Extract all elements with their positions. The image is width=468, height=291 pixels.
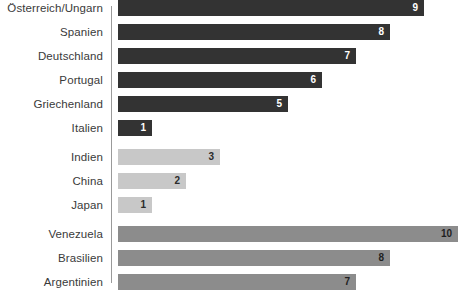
bar-track: 8 — [118, 250, 468, 266]
category-label: Deutschland — [0, 48, 103, 64]
bar-track: 8 — [118, 24, 468, 40]
bar-value-label: 7 — [344, 48, 350, 64]
bar-track: 5 — [118, 96, 468, 112]
bar[interactable]: 2 — [118, 173, 186, 189]
bar-track: 3 — [118, 149, 468, 165]
bar[interactable]: 5 — [118, 96, 288, 112]
bar[interactable]: 7 — [118, 274, 356, 290]
bar-row[interactable]: Portugal6 — [0, 72, 468, 88]
bar[interactable]: 1 — [118, 197, 152, 213]
bar-value-label: 3 — [208, 149, 214, 165]
category-label: Griechenland — [0, 96, 103, 112]
bar-group-suedamerika: Venezuela10Brasilien8Argentinien7 — [0, 226, 468, 290]
bar-group-europa: Österreich/Ungarn9Spanien8Deutschland7Po… — [0, 0, 468, 136]
category-label: Italien — [0, 120, 103, 136]
bar-row[interactable]: Griechenland5 — [0, 96, 468, 112]
bar-row[interactable]: Indien3 — [0, 149, 468, 165]
bar[interactable]: 8 — [118, 250, 390, 266]
bar-track: 7 — [118, 274, 468, 290]
category-label: Österreich/Ungarn — [0, 0, 103, 16]
bar-row[interactable]: Brasilien8 — [0, 250, 468, 266]
bar-track: 1 — [118, 197, 468, 213]
bar-row[interactable]: Venezuela10 — [0, 226, 468, 242]
category-label: Venezuela — [0, 226, 103, 242]
category-label: Spanien — [0, 24, 103, 40]
bar-value-label: 6 — [310, 72, 316, 88]
bar-value-label: 7 — [344, 274, 350, 290]
category-label: Portugal — [0, 72, 103, 88]
bar-value-label: 10 — [441, 226, 452, 242]
bar[interactable]: 7 — [118, 48, 356, 64]
bar-chart: Österreich/Ungarn9Spanien8Deutschland7Po… — [0, 0, 468, 291]
category-label: Argentinien — [0, 274, 103, 290]
bar-track: 6 — [118, 72, 468, 88]
bar-row[interactable]: Japan1 — [0, 197, 468, 213]
bar-row[interactable]: Deutschland7 — [0, 48, 468, 64]
bar[interactable]: 10 — [118, 226, 458, 242]
bar-track: 7 — [118, 48, 468, 64]
bar[interactable]: 8 — [118, 24, 390, 40]
bar-track: 2 — [118, 173, 468, 189]
bar-row[interactable]: China2 — [0, 173, 468, 189]
bar-group-asien: Indien3China2Japan1 — [0, 149, 468, 213]
bar-rows-container: Österreich/Ungarn9Spanien8Deutschland7Po… — [0, 0, 468, 291]
bar-value-label: 8 — [378, 24, 384, 40]
bar[interactable]: 1 — [118, 120, 152, 136]
bar-value-label: 1 — [140, 197, 146, 213]
bar[interactable]: 9 — [118, 0, 424, 16]
bar-value-label: 8 — [378, 250, 384, 266]
bar-row[interactable]: Spanien8 — [0, 24, 468, 40]
bar-value-label: 9 — [412, 0, 418, 16]
bar-value-label: 1 — [140, 120, 146, 136]
bar-track: 10 — [118, 226, 468, 242]
bar-value-label: 2 — [174, 173, 180, 189]
bar-value-label: 5 — [276, 96, 282, 112]
category-label: Japan — [0, 197, 103, 213]
category-label: Indien — [0, 149, 103, 165]
bar[interactable]: 6 — [118, 72, 322, 88]
category-label: Brasilien — [0, 250, 103, 266]
bar[interactable]: 3 — [118, 149, 220, 165]
bar-row[interactable]: Österreich/Ungarn9 — [0, 0, 468, 16]
bar-row[interactable]: Italien1 — [0, 120, 468, 136]
bar-row[interactable]: Argentinien7 — [0, 274, 468, 290]
category-label: China — [0, 173, 103, 189]
bar-track: 1 — [118, 120, 468, 136]
bar-track: 9 — [118, 0, 468, 16]
